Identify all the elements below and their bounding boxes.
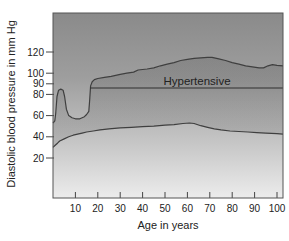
hypertensive-label: Hypertensive xyxy=(163,75,230,87)
x-axis-title: Age in years xyxy=(137,219,199,231)
y-tick-label: 100 xyxy=(27,68,44,79)
y-tick-label: 80 xyxy=(33,89,45,100)
x-tick-label: 20 xyxy=(92,203,104,214)
x-tick-label: 60 xyxy=(182,203,194,214)
y-tick-label: 40 xyxy=(33,131,45,142)
x-tick-label: 50 xyxy=(159,203,171,214)
x-tick-label: 90 xyxy=(249,203,261,214)
y-axis-title: Diastolic blood pressure in mm Hg xyxy=(5,20,17,188)
x-tick-label: 30 xyxy=(115,203,127,214)
x-tick-label: 40 xyxy=(137,203,149,214)
y-tick-label: 60 xyxy=(33,110,45,121)
x-tick-label: 100 xyxy=(269,203,286,214)
chart-svg: Hypertensive 2040608090100120 1020304050… xyxy=(0,0,289,241)
y-tick-label: 120 xyxy=(27,47,44,58)
x-tick-label: 10 xyxy=(70,203,82,214)
x-tick-label: 70 xyxy=(204,203,216,214)
y-tick-label: 20 xyxy=(33,153,45,164)
y-ticks: 2040608090100120 xyxy=(27,47,54,164)
y-tick-label: 90 xyxy=(33,78,45,89)
x-tick-label: 80 xyxy=(227,203,239,214)
blood-pressure-age-figure: Hypertensive 2040608090100120 1020304050… xyxy=(0,0,289,241)
